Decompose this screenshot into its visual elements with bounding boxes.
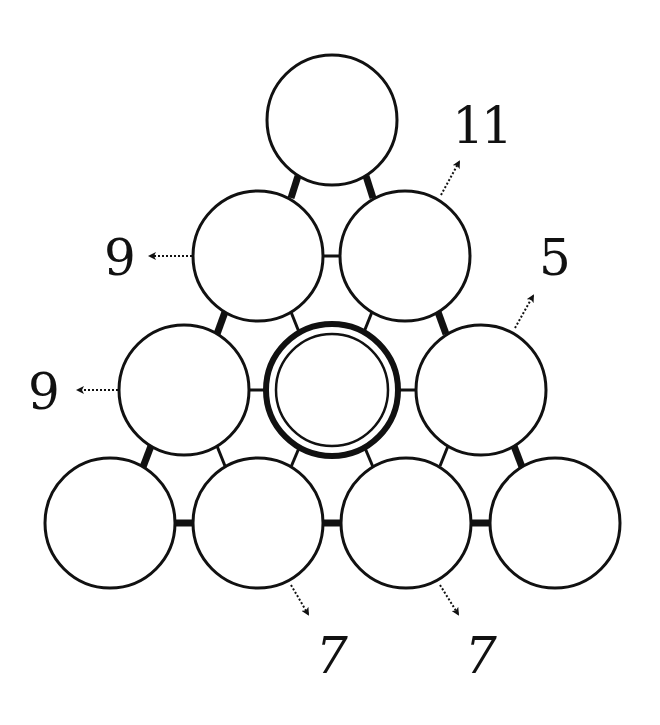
connector-thick: [366, 176, 373, 198]
circle-outline[interactable]: [416, 325, 546, 455]
circle-outline[interactable]: [340, 191, 470, 321]
arrow-icon: [515, 296, 533, 328]
clue-label-9-upper: 9: [104, 233, 136, 283]
circle-cell-r2c1[interactable]: [193, 191, 323, 321]
circle-cell-r4c3[interactable]: [341, 458, 471, 588]
connector-thick: [514, 446, 522, 467]
clue-label-11: 11: [452, 101, 510, 151]
connector-thick: [291, 176, 298, 198]
connector-thin: [440, 446, 448, 466]
connector-thick: [217, 312, 225, 334]
number-pyramid-puzzle: 11 9 5 9 7 7: [0, 0, 660, 725]
pyramid-board: [0, 0, 660, 725]
circle-cells: [45, 55, 620, 588]
arrow-icon: [441, 162, 459, 195]
circle-cell-r1c1[interactable]: [267, 55, 397, 185]
connector-thick: [143, 446, 151, 467]
circle-outline[interactable]: [45, 458, 175, 588]
circle-outline[interactable]: [341, 458, 471, 588]
circle-cell-r4c2[interactable]: [193, 458, 323, 588]
clue-label-7-left: 7: [316, 631, 348, 681]
circle-outline[interactable]: [193, 458, 323, 588]
circle-cell-r3c1[interactable]: [119, 325, 249, 455]
circle-cell-r2c2[interactable]: [340, 191, 470, 321]
circle-cell-r4c4[interactable]: [490, 458, 620, 588]
connector-thin: [217, 446, 225, 466]
arrow-icon: [291, 585, 308, 614]
connector-thin: [364, 312, 372, 332]
circle-outline[interactable]: [267, 55, 397, 185]
circle-cell-r4c1[interactable]: [45, 458, 175, 588]
arrow-icon: [440, 585, 458, 614]
circle-outline[interactable]: [193, 191, 323, 321]
circle-cell-r3c2[interactable]: [266, 324, 398, 456]
connector-thin: [291, 448, 299, 467]
circle-outline[interactable]: [119, 325, 249, 455]
connector-thin: [365, 448, 373, 467]
clue-label-7-right: 7: [465, 631, 497, 681]
clue-label-9-lower: 9: [28, 367, 60, 417]
connector-thin: [291, 312, 299, 332]
circle-cell-r3c3[interactable]: [416, 325, 546, 455]
clue-label-5: 5: [539, 233, 571, 283]
circle-outline[interactable]: [490, 458, 620, 588]
highlighted-circle-outer-ring[interactable]: [266, 324, 398, 456]
connector-thick: [438, 312, 446, 334]
